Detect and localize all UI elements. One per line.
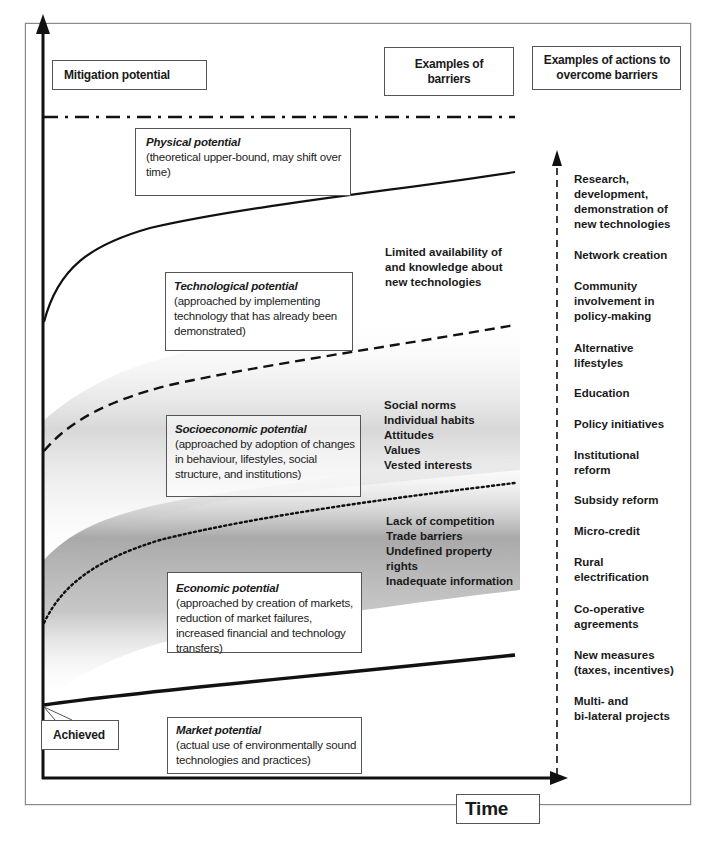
economic-potential-title: Economic potential: [176, 581, 362, 596]
achieved-callout-pointer: [44, 707, 72, 720]
x-axis-label-box: Time: [456, 794, 540, 824]
physical-potential-title: Physical potential: [146, 135, 346, 150]
action-item: New measures (taxes, incentives): [574, 648, 674, 678]
y-axis-label-box: Mitigation potential: [52, 60, 207, 90]
barrier-item: Limited availability of: [385, 245, 503, 260]
action-line: Community: [574, 279, 655, 294]
action-line: bi-lateral projects: [574, 709, 670, 724]
economic-potential-description: (approached by creation of markets, redu…: [176, 596, 362, 656]
action-item: Multi- and bi-lateral projects: [574, 694, 670, 724]
barrier-item: Undefined property: [386, 544, 513, 559]
x-axis-arrow-icon: [550, 771, 568, 785]
action-line: Multi- and: [574, 694, 670, 709]
action-line: agreements: [574, 617, 644, 632]
technological-potential-box: Technological potential (approached by i…: [165, 272, 353, 351]
action-line: Research,: [574, 172, 671, 187]
action-line: involvement in: [574, 294, 655, 309]
barrier-group-technological: Limited availability of and knowledge ab…: [385, 245, 503, 290]
action-item: Institutional reform: [574, 448, 639, 478]
action-line: Co-operative: [574, 602, 644, 617]
action-line: Subsidy reform: [574, 493, 658, 508]
action-item: Rural electrification: [574, 555, 649, 585]
physical-potential-description: (theoretical upper-bound, may shift over…: [146, 150, 346, 180]
barrier-group-economic: Lack of competition Trade barriers Undef…: [386, 514, 513, 589]
action-item: Research, development, demonstration of …: [574, 172, 671, 232]
market-potential-title: Market potential: [176, 723, 362, 738]
technological-potential-description: (approached by implementing technology t…: [174, 294, 352, 339]
barrier-item: rights: [386, 559, 513, 574]
diagram-stage: Mitigation potential Examples of barrier…: [0, 0, 711, 857]
barrier-item: Vested interests: [384, 458, 475, 473]
technological-potential-title: Technological potential: [174, 279, 352, 294]
x-axis-label: Time: [465, 796, 508, 822]
action-line: Rural: [574, 555, 649, 570]
barrier-item: Individual habits: [384, 413, 475, 428]
economic-potential-box: Economic potential (approached by creati…: [167, 572, 362, 653]
actions-header-box: Examples of actions to overcome barriers: [532, 46, 681, 90]
action-line: (taxes, incentives): [574, 663, 674, 678]
barrier-item: Inadequate information: [386, 574, 513, 589]
physical-potential-box: Physical potential (theoretical upper-bo…: [135, 128, 351, 196]
socioeconomic-potential-title: Socioeconomic potential: [175, 422, 361, 437]
barrier-item: new technologies: [385, 275, 503, 290]
action-item: Education: [574, 386, 630, 401]
action-line: electrification: [574, 570, 649, 585]
barrier-item: Social norms: [384, 398, 475, 413]
barrier-group-socioeconomic: Social norms Individual habits Attitudes…: [384, 398, 475, 473]
action-line: Policy initiatives: [574, 417, 664, 432]
barriers-header-box: Examples of barriers: [384, 47, 514, 96]
actions-arrow-icon: [552, 150, 562, 166]
barrier-item: Values: [384, 443, 475, 458]
action-item: Micro-credit: [574, 524, 640, 539]
y-axis-arrow-icon: [36, 14, 50, 34]
barrier-item: Lack of competition: [386, 514, 513, 529]
action-item: Co-operative agreements: [574, 602, 644, 632]
action-line: Institutional: [574, 448, 639, 463]
market-potential-description: (actual use of environmentally sound tec…: [176, 738, 362, 768]
action-line: policy-making: [574, 309, 655, 324]
barrier-item: Attitudes: [384, 428, 475, 443]
action-item: Community involvement in policy-making: [574, 279, 655, 324]
action-line: Micro-credit: [574, 524, 640, 539]
actions-header: Examples of actions to overcome barriers: [537, 53, 677, 83]
market-potential-box: Market potential (actual use of environm…: [167, 717, 362, 774]
socioeconomic-potential-box: Socioeconomic potential (approached by a…: [166, 415, 361, 497]
action-line: Network creation: [574, 248, 667, 263]
action-item: Network creation: [574, 248, 667, 263]
action-line: Alternative: [574, 341, 633, 356]
action-line: new technologies: [574, 217, 671, 232]
action-line: New measures: [574, 648, 674, 663]
socioeconomic-potential-description: (approached by adoption of changes in be…: [175, 437, 361, 482]
barrier-item: and knowledge about: [385, 260, 503, 275]
achieved-label: Achieved: [53, 728, 105, 743]
achieved-callout: Achieved: [41, 720, 119, 750]
action-item: Alternative lifestyles: [574, 341, 633, 371]
market-potential-line: [44, 655, 515, 705]
y-axis-label: Mitigation potential: [64, 68, 170, 83]
action-line: demonstration of: [574, 202, 671, 217]
action-item: Subsidy reform: [574, 493, 658, 508]
action-line: Education: [574, 386, 630, 401]
action-line: lifestyles: [574, 356, 633, 371]
barriers-header: Examples of barriers: [395, 57, 503, 87]
action-item: Policy initiatives: [574, 417, 664, 432]
action-line: development,: [574, 187, 671, 202]
action-line: reform: [574, 463, 639, 478]
barrier-item: Trade barriers: [386, 529, 513, 544]
